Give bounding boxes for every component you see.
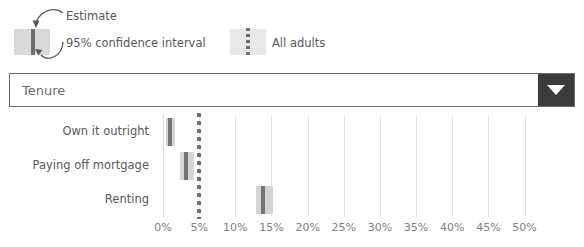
dropdown-selected-value[interactable]: Tenure [10, 74, 538, 106]
estimate-marker [184, 152, 188, 180]
category-label: Own it outright [0, 124, 157, 138]
x-tick-label: 25% [332, 221, 356, 234]
all-adults-reference-line [197, 113, 201, 219]
x-tick-label: 40% [440, 221, 464, 234]
x-tick-label: 30% [368, 221, 392, 234]
chart-row [163, 115, 539, 149]
estimate-arrow-curve [36, 10, 63, 22]
tenure-dropdown[interactable]: Tenure [9, 73, 575, 107]
plot-area [163, 115, 539, 217]
ci-arrow-curve [41, 42, 63, 58]
annotation-arrows [0, 0, 584, 68]
x-tick-label: 45% [476, 221, 500, 234]
ci-arrow-head [35, 49, 43, 56]
category-label: Paying off mortgage [0, 158, 157, 172]
x-axis-tick-labels: 0%5%10%15%20%25%30%35%40%45%50% [163, 221, 539, 239]
x-tick-label: 0% [154, 221, 171, 234]
chevron-down-icon[interactable] [538, 74, 574, 106]
x-tick-label: 20% [295, 221, 319, 234]
caret-glyph [547, 85, 565, 95]
estimate-marker [168, 118, 172, 146]
chart-row [163, 149, 539, 183]
x-tick-label: 50% [512, 221, 536, 234]
category-axis-labels: Own it outrightPaying off mortgageRentin… [0, 115, 157, 217]
x-tick-label: 35% [404, 221, 428, 234]
category-label: Renting [0, 192, 157, 206]
x-tick-label: 5% [190, 221, 207, 234]
x-tick-label: 10% [223, 221, 247, 234]
estimate-arrow-head [33, 21, 40, 29]
legend: Estimate 95% confidence interval All adu… [0, 0, 584, 68]
tenure-chart: Own it outrightPaying off mortgageRentin… [0, 113, 584, 247]
chart-row [163, 183, 539, 217]
x-tick-label: 15% [259, 221, 283, 234]
estimate-marker [261, 186, 265, 214]
